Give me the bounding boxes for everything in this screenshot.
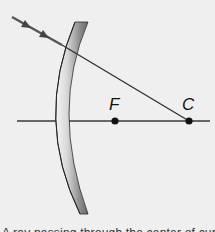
ray-to-center [62,45,189,121]
figure-caption: A ray passing through the center of curv… [2,226,215,232]
focal-point-label: F [109,95,121,114]
mirror-diagram: F C [0,0,215,232]
center-of-curvature-dot [185,117,192,124]
incident-ray [12,17,62,45]
center-of-curvature-label: C [182,95,195,114]
focal-point-dot [111,117,118,124]
